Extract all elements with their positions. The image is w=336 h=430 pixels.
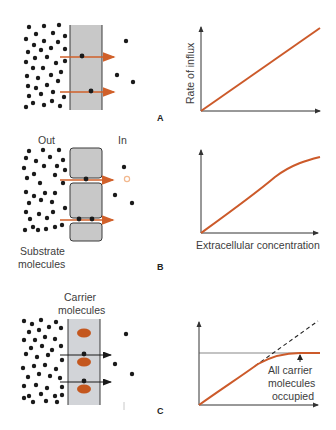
membrane xyxy=(70,25,102,110)
x-axis-label: Extracellular concentration xyxy=(196,239,320,251)
panel-c-diagram xyxy=(21,318,134,410)
substrate-molecules-out xyxy=(21,318,64,404)
substrate-molecules-in xyxy=(113,332,134,376)
out-label: Out xyxy=(38,134,55,146)
y-axis-label: Rate of influx xyxy=(184,43,196,104)
membrane-segment xyxy=(70,183,102,218)
membrane-segment xyxy=(70,148,102,178)
annotation-line3: occupied xyxy=(272,390,314,402)
carrier-label-line2: molecules xyxy=(58,304,105,316)
panel-a-graph xyxy=(201,27,320,111)
in-label: In xyxy=(118,134,127,146)
panel-letter-b: B xyxy=(157,262,164,272)
membrane-segment xyxy=(70,223,102,241)
substrate-molecules-in xyxy=(113,165,134,205)
faded-molecule xyxy=(124,176,129,181)
linear-curve xyxy=(201,28,320,111)
panel-a-diagram xyxy=(24,23,135,110)
panel-letter-c: C xyxy=(157,406,164,416)
panel-b-graph xyxy=(201,150,320,233)
substrate-molecules-out xyxy=(24,23,67,109)
substrate-molecules-in xyxy=(115,39,135,84)
panel-b-diagram xyxy=(22,148,134,241)
annotation-line2: molecules xyxy=(268,377,315,389)
linear-extrapolation xyxy=(255,321,318,366)
annotation-line1: All carrier xyxy=(268,364,312,376)
panel-letter-a: A xyxy=(157,113,164,123)
carrier-label-line1: Carrier xyxy=(64,291,96,303)
saturating-curve xyxy=(201,157,320,233)
substrate-label-line2: molecules xyxy=(18,258,65,270)
substrate-label-line1: Substrate xyxy=(20,245,65,257)
